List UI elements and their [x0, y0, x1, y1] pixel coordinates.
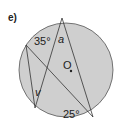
angle-v-label: v: [35, 86, 41, 98]
angle-a-label: a: [58, 33, 64, 45]
angle-35-label: 35°: [34, 35, 51, 47]
angle-25-label: 25°: [63, 108, 80, 120]
center-o-label: O: [63, 59, 72, 71]
